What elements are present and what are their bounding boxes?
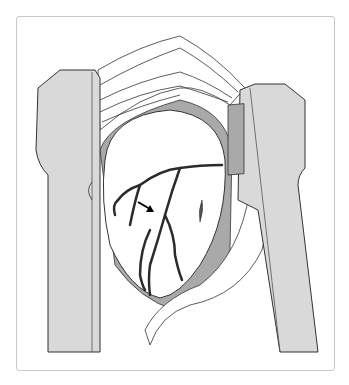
surgical-illustration [0, 0, 349, 385]
left-retractor [36, 70, 100, 352]
retractor-window [228, 104, 244, 175]
